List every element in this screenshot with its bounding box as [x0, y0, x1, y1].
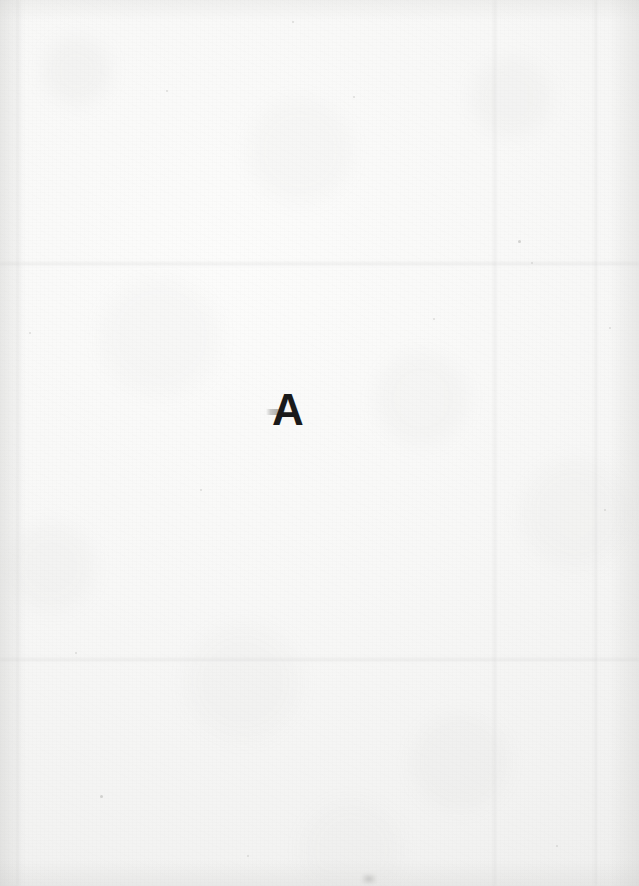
scanned-page: A — [0, 0, 639, 886]
paper-grain-texture — [0, 0, 639, 886]
page-letter-mark: A — [272, 388, 303, 432]
